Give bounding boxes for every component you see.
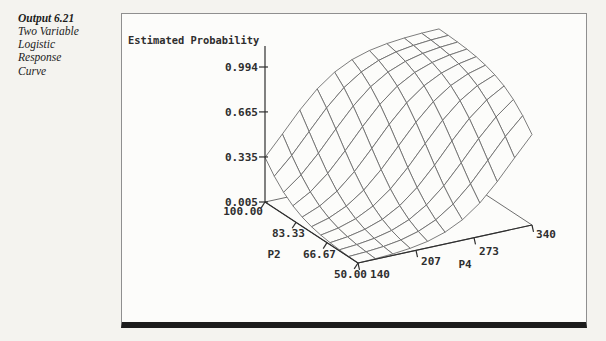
figure-caption: Output 6.21 Two Variable Logistic Respon… bbox=[18, 12, 118, 78]
caption-line: Logistic bbox=[18, 38, 118, 51]
svg-text:140: 140 bbox=[370, 268, 390, 281]
svg-text:0.335: 0.335 bbox=[225, 151, 258, 164]
surface-plot: 0.0050.3350.6650.994100.0083.3366.6750.0… bbox=[122, 14, 586, 322]
svg-text:50.00: 50.00 bbox=[334, 268, 367, 281]
svg-text:207: 207 bbox=[421, 255, 441, 268]
svg-text:100.00: 100.00 bbox=[223, 205, 263, 218]
plot-title: Estimated Probability bbox=[128, 34, 259, 46]
svg-text:83.33: 83.33 bbox=[272, 227, 305, 240]
svg-text:P2: P2 bbox=[267, 248, 280, 261]
output-number: Output 6.21 bbox=[18, 12, 118, 24]
caption-line: Curve bbox=[18, 65, 118, 78]
caption-line: Response bbox=[18, 51, 118, 64]
svg-text:340: 340 bbox=[536, 228, 556, 241]
svg-text:P4: P4 bbox=[458, 258, 472, 271]
caption-line: Two Variable bbox=[18, 25, 118, 38]
svg-text:0.994: 0.994 bbox=[225, 61, 258, 74]
svg-text:66.67: 66.67 bbox=[303, 248, 336, 261]
svg-text:273: 273 bbox=[479, 245, 499, 258]
svg-text:0.665: 0.665 bbox=[225, 106, 258, 119]
book-page: Output 6.21 Two Variable Logistic Respon… bbox=[0, 0, 606, 341]
output-frame: 0.0050.3350.6650.994100.0083.3366.6750.0… bbox=[121, 13, 587, 328]
